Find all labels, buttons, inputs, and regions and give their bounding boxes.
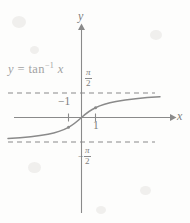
equation-equals: = <box>17 62 24 76</box>
lower-asymptote-numerator: π <box>84 146 91 155</box>
equation-function-name: tan <box>28 62 44 76</box>
equation-lhs: y <box>8 62 14 76</box>
y-axis-label: y <box>78 10 83 22</box>
x-tick-label-negative-one: −1 <box>58 96 70 108</box>
equation-exponent: −1 <box>45 61 54 70</box>
upper-asymptote-denominator: 2 <box>85 79 92 88</box>
marker-at-neg-one <box>67 126 70 129</box>
lower-asymptote-label-negative-pi-over-2: − π 2 <box>84 146 91 167</box>
marker-at-pos-one <box>94 106 97 109</box>
upper-asymptote-numerator: π <box>85 68 92 77</box>
plot-canvas <box>0 0 190 223</box>
lower-asymptote-minus-sign: − <box>78 151 84 162</box>
y-axis-arrowhead <box>78 24 85 31</box>
upper-asymptote-label-pi-over-2: π 2 <box>85 68 92 89</box>
equation-label: y = tan−1 x <box>8 62 64 76</box>
x-axis-arrowhead <box>170 114 177 121</box>
x-axis-label: x <box>177 110 182 122</box>
equation-argument: x <box>58 62 64 76</box>
inverse-tangent-graph-figure: y = tan−1 x y x −1 1 π 2 − π 2 <box>0 0 190 223</box>
lower-asymptote-denominator: 2 <box>84 157 91 166</box>
x-tick-label-positive-one: 1 <box>93 120 99 132</box>
